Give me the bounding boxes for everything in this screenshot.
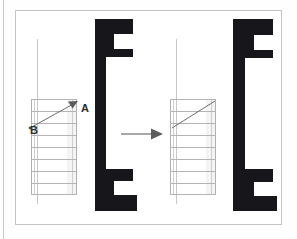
- label-point-b: B: [30, 125, 38, 136]
- ladder-rung: [170, 171, 216, 172]
- profile-after: [231, 19, 281, 213]
- ladder-rung: [170, 194, 216, 195]
- ladder-rung: [31, 183, 77, 184]
- label-point-a: A: [81, 103, 89, 114]
- figure-canvas: A B: [0, 0, 297, 239]
- panel-after: [158, 11, 283, 224]
- ladder-rung: [31, 194, 77, 195]
- figure-title: Stair flight section transformation: [0, 0, 1, 1]
- ladder-rung: [31, 147, 77, 148]
- figure-frame: A B: [15, 10, 282, 225]
- panel-before: A B: [16, 11, 141, 224]
- profile-before: [93, 19, 141, 213]
- ladder-rung: [31, 171, 77, 172]
- ladder-rung: [170, 147, 216, 148]
- page-edge-rule: [3, 0, 4, 239]
- vector-b-to-a-after: [166, 91, 226, 136]
- ladder-rung: [170, 183, 216, 184]
- ladder-rung: [31, 159, 77, 160]
- ladder-rung: [170, 159, 216, 160]
